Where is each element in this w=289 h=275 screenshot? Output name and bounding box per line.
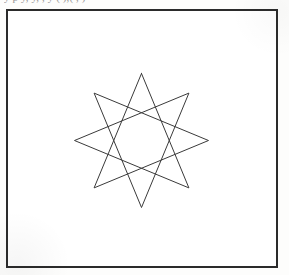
scanned-page: y p y, y, , y ( ),( , ) (0, 0, 289, 275)
star-polygon-figure (0, 0, 289, 275)
star-polygon-path (75, 74, 209, 208)
